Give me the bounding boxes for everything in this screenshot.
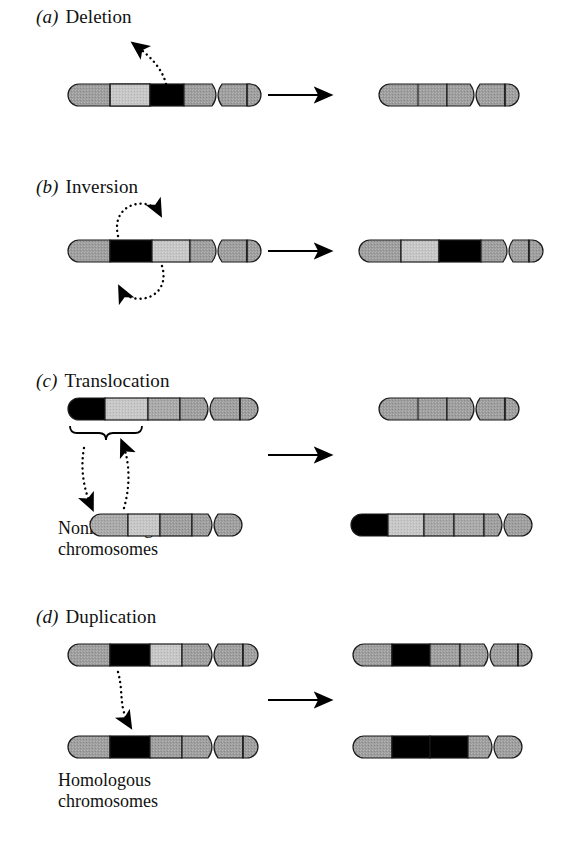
panel-c-name: Translocation — [64, 370, 169, 391]
nonhomologous-caption: Nonhomologous chromosomes — [58, 518, 178, 560]
panel-b-title: (b)Inversion — [36, 176, 138, 198]
panel-a-label: (a) — [36, 6, 58, 27]
panel-b-label: (b) — [36, 176, 58, 197]
panel-b-name: Inversion — [65, 176, 138, 197]
panel-duplication: (d)Duplication Homologous chromosomes — [0, 600, 570, 862]
panel-inversion: (b)Inversion — [0, 170, 570, 360]
homologous-caption: Homologous chromosomes — [58, 770, 158, 812]
panel-d-name: Duplication — [65, 606, 156, 627]
panel-c-label: (c) — [36, 370, 57, 391]
panel-c-title: (c)Translocation — [36, 370, 170, 392]
panel-d-title: (d)Duplication — [36, 606, 156, 628]
panel-d-label: (d) — [36, 606, 58, 627]
panel-deletion: (a)Deletion — [0, 0, 570, 170]
chromosome-mutations-figure: (a)Deletion (b)Inversion (c)Translocatio… — [0, 0, 570, 862]
panel-a-name: Deletion — [65, 6, 131, 27]
panel-translocation: (c)Translocation Nonhomologous chromosom… — [0, 360, 570, 600]
panel-a-title: (a)Deletion — [36, 6, 132, 28]
